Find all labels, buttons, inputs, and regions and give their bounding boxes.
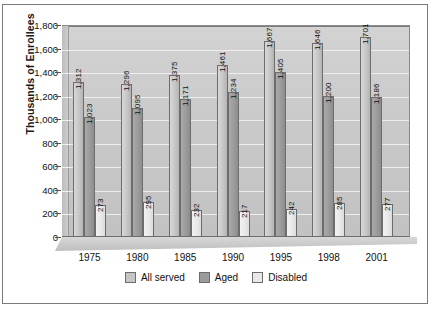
bar-all-served-1990 bbox=[217, 65, 228, 237]
y-axis-tick-mark bbox=[55, 166, 61, 167]
y-axis-tick-mark bbox=[55, 119, 61, 120]
legend-swatch-icon bbox=[199, 272, 210, 283]
legend-label: All served bbox=[141, 272, 185, 283]
gridline bbox=[62, 73, 409, 74]
y-axis-tick-label: 1,800 bbox=[2, 20, 58, 31]
legend-swatch-icon bbox=[252, 272, 263, 283]
bar-value-label: 1,200 bbox=[324, 82, 333, 103]
bar-value-label: 1,296 bbox=[122, 71, 131, 92]
bar-value-label: 1,186 bbox=[372, 84, 381, 105]
y-axis-tick-mark bbox=[55, 72, 61, 73]
bar-value-label: 1,646 bbox=[313, 30, 322, 51]
bar-value-label: 277 bbox=[383, 198, 392, 212]
y-axis-tick-label: 800 bbox=[2, 137, 58, 148]
y-axis-tick-label: 0 bbox=[2, 232, 58, 243]
y-axis-tick-label: 1,200 bbox=[2, 90, 58, 101]
bar-all-served-1998 bbox=[312, 43, 323, 237]
bar-all-served-1995 bbox=[264, 41, 275, 237]
y-axis-tick-mark bbox=[55, 25, 61, 26]
y-axis-tick-mark bbox=[55, 237, 61, 238]
bar-aged-1975 bbox=[84, 117, 95, 237]
y-axis-tick-mark bbox=[55, 213, 61, 214]
bar-value-label: 1,375 bbox=[170, 62, 179, 83]
gridline bbox=[62, 50, 409, 51]
bar-aged-1995 bbox=[275, 72, 286, 237]
plot-top-border bbox=[62, 26, 409, 27]
bar-aged-1998 bbox=[323, 96, 334, 237]
bar-aged-2001 bbox=[371, 97, 382, 237]
bar-aged-1990 bbox=[228, 92, 239, 237]
legend-item-aged[interactable]: Aged bbox=[199, 272, 238, 283]
bar-value-label: 242 bbox=[287, 202, 296, 216]
bar-value-label: 1,312 bbox=[74, 69, 83, 90]
legend-swatch-icon bbox=[125, 272, 136, 283]
bar-chart-figure: Thousands of Enrollees 02004006008001,00… bbox=[0, 0, 432, 312]
bar-value-label: 1,405 bbox=[276, 58, 285, 79]
y-axis-tick-mark bbox=[55, 96, 61, 97]
x-axis-tick-label: 2001 bbox=[347, 252, 407, 263]
y-axis-tick-label: 600 bbox=[2, 161, 58, 172]
bar-all-served-1975 bbox=[73, 82, 84, 237]
bar-value-label: 1,667 bbox=[265, 27, 274, 48]
bar-value-label: 232 bbox=[192, 203, 201, 217]
chart-legend: All servedAgedDisabled bbox=[0, 272, 432, 283]
bar-value-label: 1,701 bbox=[361, 23, 370, 44]
y-axis-tick-mark bbox=[55, 190, 61, 191]
bar-aged-1985 bbox=[180, 99, 191, 237]
legend-label: Aged bbox=[215, 272, 238, 283]
bar-all-served-1985 bbox=[169, 75, 180, 237]
bar-all-served-2001 bbox=[360, 37, 371, 237]
bar-value-label: 285 bbox=[335, 197, 344, 211]
y-axis-tick-mark bbox=[55, 49, 61, 50]
y-axis-tick-label: 1,600 bbox=[2, 43, 58, 54]
legend-item-disabled[interactable]: Disabled bbox=[252, 272, 307, 283]
y-axis-tick-label: 400 bbox=[2, 184, 58, 195]
legend-item-all-served[interactable]: All served bbox=[125, 272, 185, 283]
bar-all-served-1980 bbox=[121, 84, 132, 237]
y-axis-tick-label: 1,000 bbox=[2, 114, 58, 125]
y-axis-tick-mark bbox=[55, 143, 61, 144]
bar-value-label: 217 bbox=[240, 205, 249, 219]
bar-value-label: 273 bbox=[96, 198, 105, 212]
bar-value-label: 1,234 bbox=[229, 78, 238, 99]
plot-area: 1,3121,0232731,2961,0952951,3751,1712321… bbox=[62, 25, 410, 237]
y-axis-tick-label: 200 bbox=[2, 208, 58, 219]
bar-value-label: 1,095 bbox=[133, 95, 142, 116]
bar-aged-1980 bbox=[132, 108, 143, 237]
bar-value-label: 295 bbox=[144, 196, 153, 210]
y-axis-tick-label: 1,400 bbox=[2, 67, 58, 78]
plot-left-wall bbox=[62, 26, 69, 237]
bar-value-label: 1,171 bbox=[181, 86, 190, 107]
bar-value-label: 1,023 bbox=[85, 103, 94, 124]
legend-label: Disabled bbox=[268, 272, 307, 283]
bar-value-label: 1,461 bbox=[218, 51, 227, 72]
